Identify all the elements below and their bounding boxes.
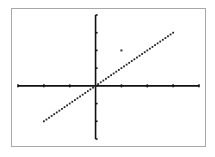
series-point xyxy=(141,53,143,55)
series-point xyxy=(71,101,73,103)
series-point xyxy=(133,58,135,60)
series-point xyxy=(128,62,130,64)
series-point xyxy=(43,120,45,122)
series-point xyxy=(58,110,60,112)
series-point xyxy=(157,42,159,44)
series-point xyxy=(110,74,112,76)
series-point xyxy=(102,80,104,82)
series-point xyxy=(118,69,120,71)
series-point xyxy=(56,112,58,114)
series-point xyxy=(69,103,71,105)
series-point xyxy=(82,94,84,96)
series-point xyxy=(79,96,81,98)
series-point xyxy=(90,89,92,91)
series-point xyxy=(53,113,55,115)
series-point xyxy=(95,85,97,87)
series-point xyxy=(100,81,102,83)
series-point xyxy=(162,39,164,41)
series-point xyxy=(77,97,79,99)
series-point xyxy=(115,71,117,73)
series-point xyxy=(87,90,89,92)
series-point xyxy=(172,32,174,34)
series-point xyxy=(84,92,86,94)
series-point xyxy=(46,119,48,121)
series-point xyxy=(149,48,151,50)
series-point xyxy=(154,44,156,46)
series-point xyxy=(131,60,133,62)
series-point xyxy=(146,50,148,52)
series-point xyxy=(113,73,115,75)
series-point xyxy=(152,46,154,48)
series-point xyxy=(144,51,146,53)
series-point xyxy=(51,115,53,117)
series-point xyxy=(123,65,125,67)
series-point xyxy=(170,34,172,36)
series-point xyxy=(159,41,161,43)
series-point xyxy=(121,67,123,69)
series-point xyxy=(105,78,107,80)
series-point xyxy=(48,117,50,119)
series-point xyxy=(61,108,63,110)
series-point xyxy=(64,106,66,108)
series-point xyxy=(74,99,76,101)
series-point xyxy=(136,57,138,59)
series-point xyxy=(97,83,99,85)
plotted-point xyxy=(120,49,122,51)
series-point xyxy=(167,35,169,37)
series-point xyxy=(92,87,94,89)
series-point xyxy=(126,64,128,66)
series-point xyxy=(66,104,68,106)
series-point xyxy=(139,55,141,57)
series-point xyxy=(108,76,110,78)
series-point xyxy=(164,37,166,39)
graph-plot xyxy=(0,0,215,157)
